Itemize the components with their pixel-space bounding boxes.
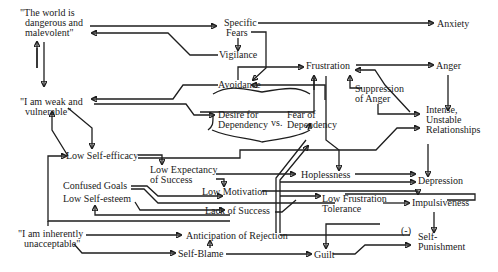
- node-desire-for-dependency: Desire for Dependency: [218, 110, 268, 130]
- node-self-blame: Self-Blame: [178, 249, 224, 259]
- node-suppression-of-anger: Suppression of Anger: [355, 84, 404, 104]
- node-low-frustration-tolerance: Low Frustration Tolerance: [322, 194, 387, 214]
- node-inherently-unacceptable: "I am inherently unacceptable": [18, 229, 83, 249]
- node-confused-goals: Confused Goals: [63, 181, 127, 191]
- node-avoidance: Avoidance: [218, 80, 261, 90]
- node-weak-vulnerable: "I am weak and vulnerable": [20, 97, 83, 117]
- node-lack-of-success: Lack of Success: [205, 206, 270, 216]
- node-anticipation-of-rejection: Anticipation of Rejection: [186, 231, 288, 241]
- node-fear-of-dependency: Fear of Dependency: [287, 110, 337, 130]
- node-low-motivation: Low Motivation: [202, 187, 267, 197]
- node-hopelessness: Hoplessness: [301, 170, 350, 180]
- node-guilt: Guilt: [314, 250, 335, 260]
- node-vs: vs.: [271, 118, 282, 128]
- label-negative-sign: (-): [401, 226, 411, 236]
- node-self-punishment: Self- Punishment: [418, 232, 465, 252]
- node-specific-fears: Specific Fears: [224, 18, 257, 38]
- node-anger: Anger: [436, 61, 461, 71]
- node-intense-unstable-relationships: Intense, Unstable Relationships: [426, 105, 480, 135]
- node-world-dangerous: "The world is dangerous and malevolent": [20, 8, 83, 38]
- diagram-canvas: "The world is dangerous and malevolent" …: [0, 0, 498, 272]
- node-low-expectancy: Low Expectancy of Success: [150, 165, 217, 185]
- node-depression: Depression: [418, 176, 463, 186]
- node-frustration: Frustration: [306, 61, 350, 71]
- node-anxiety: Anxiety: [437, 19, 469, 29]
- node-impulsiveness: Impulsiveness: [412, 198, 469, 208]
- node-low-self-efficacy: Low Self-efficacy: [66, 151, 138, 161]
- node-low-self-esteem: Low Self-esteem: [63, 194, 131, 204]
- node-vigilance: Vigilance: [219, 50, 257, 60]
